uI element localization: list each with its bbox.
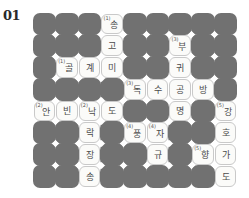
answer-cell[interactable]: 장 [79, 144, 101, 165]
clue-number: (4) [149, 124, 156, 129]
blocked-cell [146, 13, 170, 36]
cell-syllable: 고 [108, 42, 116, 51]
clue-number: (5) [194, 146, 201, 151]
cell-syllable: 부 [178, 43, 186, 52]
answer-cell[interactable]: (2)낙 [79, 101, 101, 122]
blocked-cell [123, 165, 147, 188]
blocked-cell [123, 13, 147, 36]
answer-cell[interactable]: (5)향 [192, 144, 214, 165]
answer-cell[interactable]: 방 [192, 79, 214, 100]
answer-cell[interactable]: 도 [101, 101, 123, 122]
blocked-cell [33, 56, 57, 79]
answer-cell[interactable]: 귀 [169, 57, 191, 78]
answer-cell[interactable]: 호 [215, 122, 237, 143]
cell-syllable: 안 [42, 108, 50, 117]
cell-syllable: 명 [176, 107, 184, 116]
blocked-cell [146, 34, 170, 57]
cell-syllable: 락 [86, 129, 94, 138]
cell-syllable: 방 [199, 86, 207, 95]
cell-syllable: 자 [156, 130, 164, 139]
answer-cell[interactable]: 송 [79, 166, 101, 187]
answer-cell[interactable]: (3)독 [124, 79, 146, 100]
answer-cell[interactable]: 가 [215, 144, 237, 165]
clue-number: (3) [126, 81, 133, 86]
blocked-cell [214, 34, 238, 57]
cell-syllable: 호 [222, 129, 230, 138]
blocked-cell [123, 143, 147, 166]
answer-cell[interactable]: 수 [147, 79, 169, 100]
cell-syllable: 독 [133, 86, 141, 95]
blocked-cell [146, 165, 170, 188]
blocked-cell [191, 100, 215, 123]
blocked-cell [168, 13, 192, 36]
answer-cell[interactable]: 계 [79, 57, 101, 78]
blocked-cell [123, 34, 147, 57]
clue-number: (1) [58, 59, 65, 64]
answer-cell[interactable]: (4)자 [147, 122, 169, 143]
blocked-cell [214, 56, 238, 79]
blocked-cell [100, 143, 124, 166]
blocked-cell [191, 13, 215, 36]
answer-cell[interactable]: (2)안 [34, 101, 56, 122]
cell-syllable: 향 [201, 151, 209, 160]
clue-number: (4) [126, 124, 133, 129]
blocked-cell [191, 121, 215, 144]
blocked-cell [214, 13, 238, 36]
cell-syllable: 낙 [88, 108, 96, 117]
blocked-cell [146, 56, 170, 79]
blocked-cell [191, 56, 215, 79]
answer-cell[interactable]: (5)강 [215, 101, 237, 122]
answer-cell[interactable]: 도 [215, 166, 237, 187]
clue-number: (1) [103, 16, 110, 21]
answer-cell[interactable]: 빈 [56, 101, 78, 122]
blocked-cell [168, 165, 192, 188]
blocked-cell [55, 13, 79, 36]
blocked-cell [33, 121, 57, 144]
blocked-cell [33, 165, 57, 188]
cell-syllable: 계 [86, 64, 94, 73]
answer-cell[interactable]: 락 [79, 122, 101, 143]
crossword-grid: (1)송고(3)부(1)골계미귀(3)독수공방(2)안빈(2)낙도명(5)강락(… [33, 13, 237, 187]
cell-syllable: 도 [222, 173, 230, 182]
blocked-cell [100, 78, 124, 101]
blocked-cell [168, 143, 192, 166]
blocked-cell [214, 78, 238, 101]
cell-syllable: 송 [86, 173, 94, 182]
cell-syllable: 장 [86, 151, 94, 160]
answer-cell[interactable]: (1)골 [56, 57, 78, 78]
blocked-cell [146, 100, 170, 123]
blocked-cell [55, 34, 79, 57]
clue-number: (5) [217, 103, 224, 108]
answer-cell[interactable]: (4)풍 [124, 122, 146, 143]
answer-cell[interactable]: 공 [169, 79, 191, 100]
blocked-cell [100, 121, 124, 144]
blocked-cell [191, 34, 215, 57]
cell-syllable: 빈 [63, 107, 71, 116]
cell-syllable: 가 [222, 151, 230, 160]
blocked-cell [123, 100, 147, 123]
cell-syllable: 도 [108, 107, 116, 116]
clue-number: (3) [171, 37, 178, 42]
blocked-cell [55, 121, 79, 144]
answer-cell[interactable]: (1)송 [101, 14, 123, 35]
answer-cell[interactable]: 명 [169, 101, 191, 122]
cell-syllable: 미 [108, 64, 116, 73]
answer-cell[interactable]: 고 [101, 35, 123, 56]
answer-cell[interactable]: 미 [101, 57, 123, 78]
blocked-cell [55, 143, 79, 166]
blocked-cell [33, 13, 57, 36]
blocked-cell [100, 165, 124, 188]
answer-cell[interactable]: (3)부 [169, 35, 191, 56]
blocked-cell [78, 34, 102, 57]
blocked-cell [168, 121, 192, 144]
answer-cell[interactable]: 규 [147, 144, 169, 165]
cell-syllable: 골 [65, 64, 73, 73]
blocked-cell [33, 78, 57, 101]
cell-syllable: 송 [110, 21, 118, 30]
blocked-cell [33, 143, 57, 166]
blocked-cell [55, 165, 79, 188]
blocked-cell [123, 56, 147, 79]
cell-syllable: 풍 [133, 130, 141, 139]
cell-syllable: 귀 [176, 64, 184, 73]
blocked-cell [33, 34, 57, 57]
